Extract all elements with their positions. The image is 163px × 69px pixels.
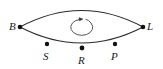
label-R: R (78, 55, 85, 66)
arc-point-P (113, 42, 117, 46)
rotation-arrowhead-icon (79, 18, 83, 21)
label-S: S (43, 51, 49, 62)
arc-point-R (80, 46, 85, 51)
arc-point-S (45, 42, 49, 46)
label-L: L (147, 21, 153, 32)
vertex-point-B (18, 25, 23, 30)
label-B: B (9, 21, 16, 32)
rotation-ellipse-path (71, 19, 93, 35)
label-P: P (111, 51, 118, 62)
lens-orbit-diagram: B L S R P (0, 0, 163, 69)
vertex-point-L (141, 25, 146, 30)
